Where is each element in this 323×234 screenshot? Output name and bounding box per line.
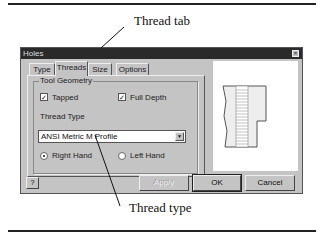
left-hand-radio[interactable] <box>118 152 126 160</box>
tapped-checkbox[interactable]: ✓ <box>40 93 48 101</box>
holes-dialog: Holes × Type Threads Size Options Tool G… <box>20 47 303 194</box>
callout-thread-tab: Thread tab <box>134 13 190 29</box>
top-rule <box>8 3 316 5</box>
thread-preview <box>213 61 298 171</box>
tool-geometry-label: Tool Geometry <box>39 76 93 85</box>
chevron-down-icon[interactable]: ▼ <box>175 132 184 141</box>
help-button[interactable]: ? <box>26 177 39 189</box>
bottom-rule <box>8 230 316 232</box>
tab-size[interactable]: Size <box>88 63 112 75</box>
left-hand-label[interactable]: Left Hand <box>130 151 165 160</box>
right-hand-radio[interactable] <box>40 152 48 160</box>
tool-geometry-group: Tool Geometry ✓ Tapped ✓ Full Depth Thre… <box>33 81 198 174</box>
tab-threads[interactable]: Threads <box>55 61 88 76</box>
close-icon[interactable]: × <box>292 50 299 57</box>
thread-type-label: Thread Type <box>40 112 85 121</box>
dialog-title: Holes <box>23 48 43 59</box>
thread-type-select[interactable]: ANSI Metric M Profile ▼ <box>38 130 186 143</box>
title-bar[interactable]: Holes × <box>21 48 302 59</box>
threaded-hole-diagram <box>213 61 298 171</box>
thread-type-value: ANSI Metric M Profile <box>41 132 117 141</box>
apply-button[interactable]: Apply <box>139 175 189 191</box>
callout-thread-type: Thread type <box>129 200 191 216</box>
full-depth-checkbox[interactable]: ✓ <box>118 93 126 101</box>
ok-button[interactable]: OK <box>193 175 241 191</box>
threads-panel: Tool Geometry ✓ Tapped ✓ Full Depth Thre… <box>27 75 205 177</box>
tab-type[interactable]: Type <box>29 63 55 75</box>
right-hand-label[interactable]: Right Hand <box>52 151 92 160</box>
cancel-button[interactable]: Cancel <box>245 175 295 191</box>
full-depth-label[interactable]: Full Depth <box>130 93 166 102</box>
tapped-label[interactable]: Tapped <box>52 93 78 102</box>
tab-options[interactable]: Options <box>116 63 149 75</box>
